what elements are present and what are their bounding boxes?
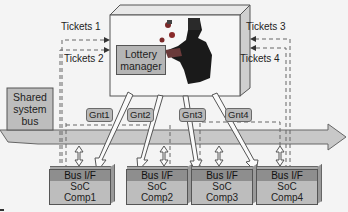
- grant-4-label: Gnt4: [225, 108, 252, 122]
- lottery-manager-line2: manager: [117, 60, 165, 72]
- component-4-line1: SoC: [257, 181, 317, 192]
- lottery-manager-label-box: Lottery manager: [116, 45, 166, 75]
- component-3-line2: Comp3: [192, 192, 252, 203]
- lottery-bus-diagram: Tickets 1 Tickets 2 Tickets 3 Tickets 4 …: [0, 0, 348, 212]
- shared-bus-line1: Shared: [7, 91, 53, 103]
- component-2-line2: Comp2: [127, 192, 187, 203]
- tickets-3-label: Tickets 3: [246, 21, 286, 32]
- shared-bus-line3: bus: [7, 115, 53, 127]
- soc-component-4: Bus I/F SoC Comp4: [256, 166, 320, 204]
- component-1-line1: SoC: [50, 181, 110, 192]
- shared-bus-line2: system: [7, 103, 53, 115]
- tickets-2-label: Tickets 2: [64, 53, 104, 64]
- grant-1-label: Gnt1: [86, 108, 113, 122]
- tickets-1-label: Tickets 1: [61, 21, 101, 32]
- soc-component-3: Bus I/F SoC Comp3: [191, 166, 255, 204]
- corner-mark: [0, 209, 4, 211]
- tickets-4-label: Tickets 4: [240, 53, 280, 64]
- grant-2-label: Gnt2: [127, 108, 154, 122]
- soc-component-1: Bus I/F SoC Comp1: [49, 166, 113, 204]
- component-1-line2: Comp1: [50, 192, 110, 203]
- lottery-manager-line1: Lottery: [117, 48, 165, 60]
- soc-component-2: Bus I/F SoC Comp2: [126, 166, 190, 204]
- component-3-line1: SoC: [192, 181, 252, 192]
- grant-3-label: Gnt3: [179, 108, 206, 122]
- component-4-line2: Comp4: [257, 192, 317, 203]
- component-2-line1: SoC: [127, 181, 187, 192]
